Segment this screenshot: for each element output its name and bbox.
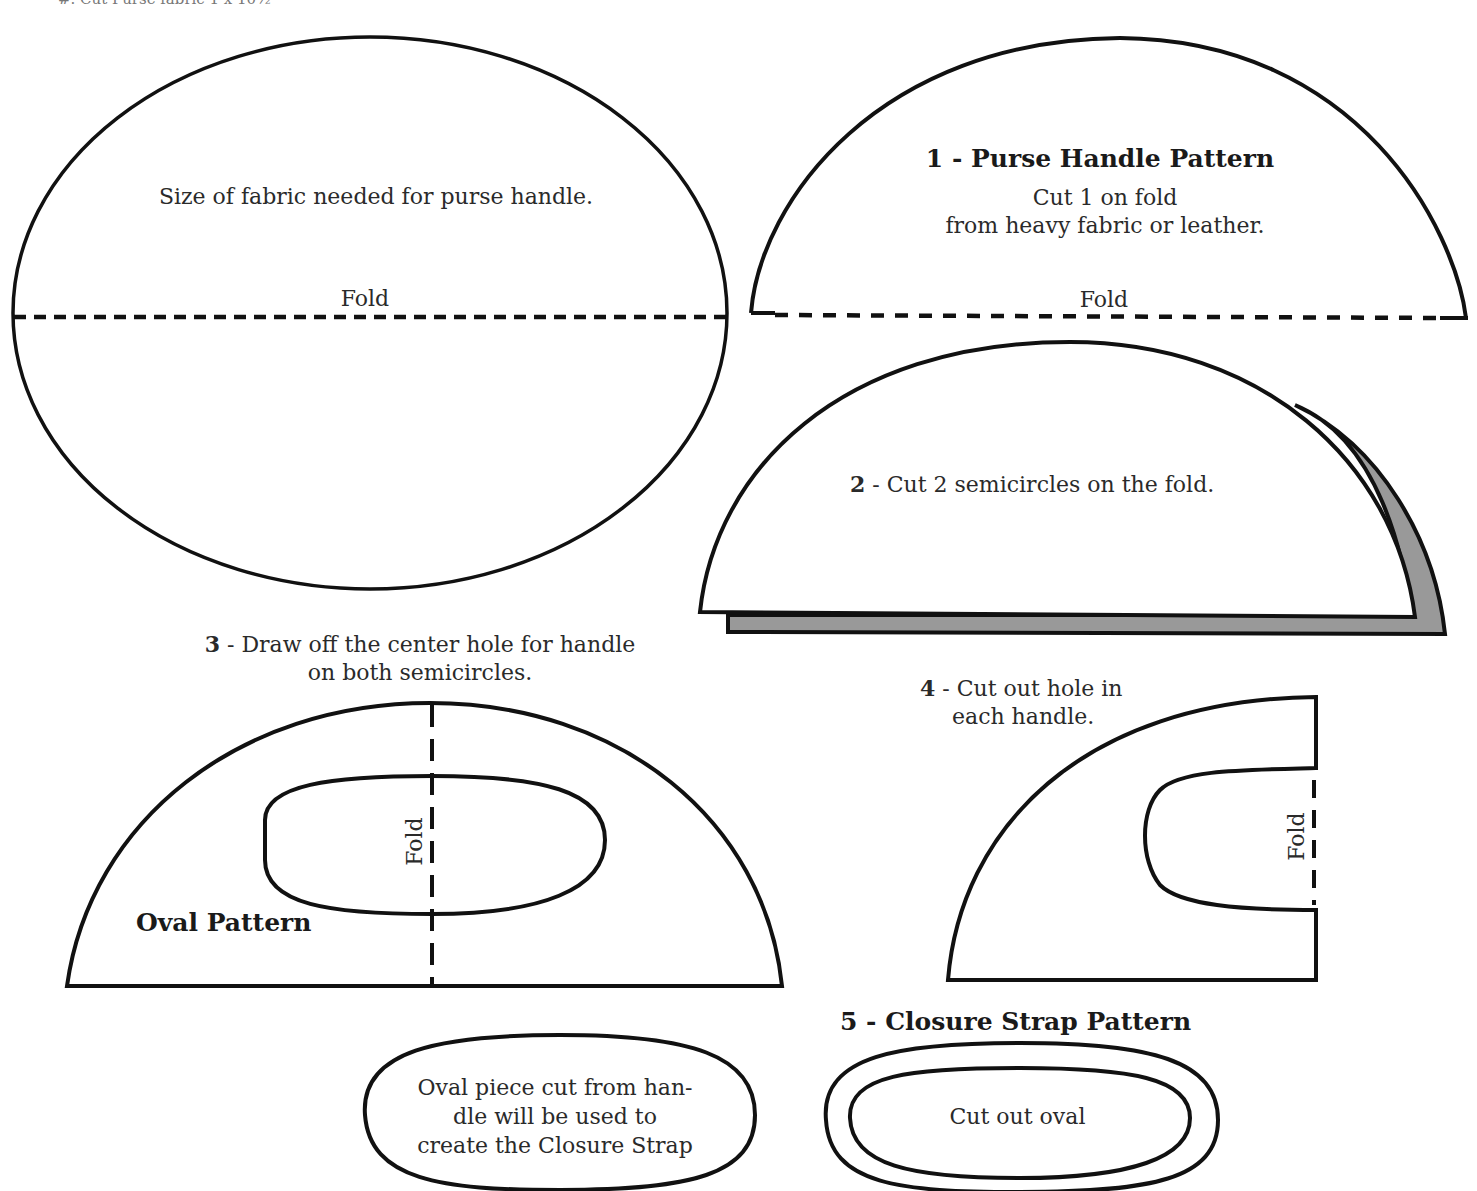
- fold-line: [775, 315, 1440, 318]
- handle-hole-outline: [265, 776, 605, 914]
- step2-text: - Cut 2 semicircles on the fold.: [865, 472, 1214, 497]
- step3-instruction-line1: 3 - Draw off the center hole for handle: [170, 631, 670, 659]
- oval-piece-line3: create the Closure Strap: [380, 1132, 730, 1160]
- pattern-drawing: [0, 0, 1477, 1191]
- step1-instruction-line1: Cut 1 on fold: [900, 184, 1310, 212]
- step4-instruction-line1: 4 - Cut out hole in: [920, 675, 1122, 703]
- fold-label-vertical: Fold: [1284, 807, 1309, 867]
- step-number: 3: [205, 631, 220, 657]
- fold-label: Fold: [330, 285, 400, 313]
- cut-out-oval-label: Cut out oval: [870, 1103, 1165, 1131]
- step4-instruction-line2: each handle.: [952, 703, 1094, 731]
- oval-piece-line2: dle will be used to: [380, 1103, 730, 1131]
- step3-instruction-line2: on both semicircles.: [170, 659, 670, 687]
- fabric-size-caption: Size of fabric needed for purse handle.: [140, 183, 612, 211]
- oval-pattern-label: Oval Pattern: [136, 907, 311, 938]
- fold-label-vertical: Fold: [402, 812, 427, 872]
- cut-handle-quarter: [948, 697, 1316, 980]
- step-number: 4: [920, 675, 935, 701]
- step2-instruction: 2 - Cut 2 semicircles on the fold.: [850, 471, 1250, 499]
- purse-handle-pattern-title: 1 - Purse Handle Pattern: [900, 143, 1300, 174]
- step1-instruction-line2: from heavy fabric or leather.: [900, 212, 1310, 240]
- step-number: 2: [850, 471, 865, 497]
- fabric-size-circle: [13, 37, 727, 589]
- step4-text: - Cut out hole in: [935, 676, 1122, 701]
- step3-text: - Draw off the center hole for handle: [220, 632, 635, 657]
- purse-handle-semicircle: [751, 38, 1468, 318]
- fold-label: Fold: [1069, 286, 1139, 314]
- oval-piece-line1: Oval piece cut from han-: [380, 1074, 730, 1102]
- closure-strap-pattern-title: 5 - Closure Strap Pattern: [840, 1006, 1191, 1037]
